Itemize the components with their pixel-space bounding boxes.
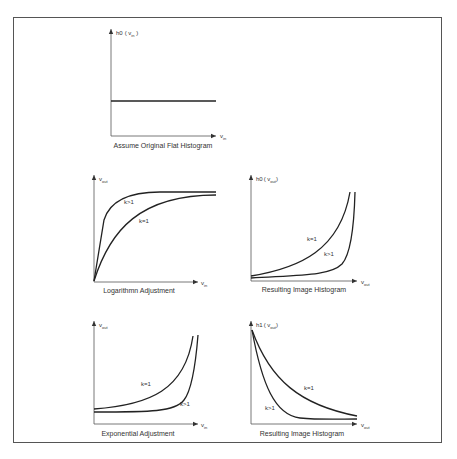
curve-label: k>1 [180, 401, 191, 407]
curve-label: k=1 [141, 381, 152, 387]
panel-logarithm-adjustment: vout vin k>1 k=1 Logarithmn Adjustment [94, 175, 216, 295]
y-axis-label: vout [99, 322, 108, 330]
curve-k-equal-1 [94, 195, 216, 281]
caption: Logarithmn Adjustment [103, 287, 175, 295]
caption: Exponential Adjustment [101, 430, 174, 438]
x-axis-label: vout [361, 279, 370, 287]
curve-label: k=1 [139, 218, 150, 224]
curve-label: k=1 [304, 385, 315, 391]
y-axis-label: h1( vout) [256, 322, 278, 330]
panel-exponential-adjustment: vout vin k=1 k>1 Exponential Adjustment [94, 321, 207, 438]
x-axis-label: vin [201, 280, 207, 288]
caption: Assume Original Flat Histogram [114, 142, 213, 150]
y-axis-label: h0( vout) [256, 176, 278, 184]
curve-label: k>1 [124, 199, 135, 205]
x-axis-label: vin [220, 133, 226, 141]
curve-k-equal-1 [252, 330, 357, 416]
caption: Resulting Image Histogram [260, 430, 345, 438]
curve-k-greater-1 [251, 192, 355, 278]
caption: Resulting Image Histogram [262, 286, 347, 294]
panel-resulting-histogram-exp: h1( vout) vout k=1 k>1 Resulting Image H… [251, 321, 370, 438]
histogram-adjustment-diagram: h0( vin ) vin Assume Original Flat Histo… [0, 0, 457, 459]
curve-label: k>1 [324, 251, 335, 257]
y-axis-label: vout [99, 176, 108, 184]
curve-label: k>1 [265, 405, 276, 411]
curve-k-equal-1 [251, 192, 350, 276]
panel-flat-histogram: h0( vin ) vin Assume Original Flat Histo… [111, 29, 226, 150]
curve-label: k=1 [307, 236, 318, 242]
x-axis-label: vin [201, 422, 207, 430]
curve-k-equal-1 [94, 336, 193, 409]
y-axis-label: h0( vin ) [116, 30, 138, 38]
panel-resulting-histogram-log: h0( vout) vout k=1 k>1 Resulting Image H… [251, 175, 370, 294]
x-axis-label: vout [361, 422, 370, 430]
